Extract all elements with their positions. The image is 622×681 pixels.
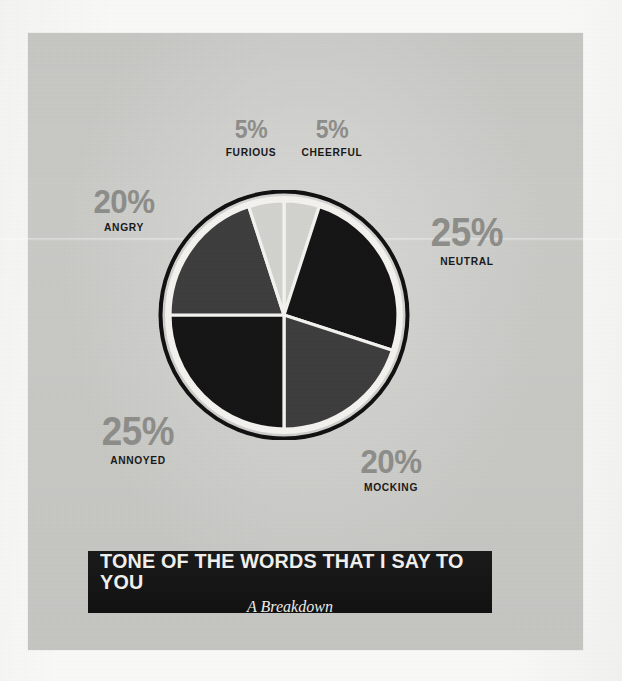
label-neutral: NEUTRAL — [413, 256, 521, 267]
banner-title: TONE OF THE WORDS THAT I SAY TO YOU — [100, 550, 480, 592]
pie-slices-group — [170, 201, 398, 429]
percent-mocking: 20% — [340, 445, 441, 477]
callout-mocking: 20% MOCKING — [336, 445, 446, 493]
callout-cheerful: 5% CHEERFUL — [281, 118, 383, 158]
label-angry: ANGRY — [76, 222, 173, 233]
callout-angry: 20% ANGRY — [72, 185, 176, 233]
callout-annoyed: 25% ANNOYED — [78, 412, 198, 466]
percent-cheerful: 5% — [285, 118, 379, 142]
percent-annoyed: 25% — [83, 412, 193, 450]
paper-sheet: 5% FURIOUS 5% CHEERFUL 25% NEUTRAL 20% M… — [0, 0, 622, 681]
percent-neutral: 25% — [414, 213, 521, 251]
percent-angry: 20% — [76, 185, 172, 217]
label-annoyed: ANNOYED — [82, 455, 194, 466]
pie-chart — [155, 190, 413, 440]
title-banner: TONE OF THE WORDS THAT I SAY TO YOU A Br… — [88, 551, 492, 613]
label-cheerful: CHEERFUL — [285, 147, 380, 158]
callout-neutral: 25% NEUTRAL — [409, 213, 525, 267]
pie-chart-svg — [155, 190, 413, 440]
label-mocking: MOCKING — [340, 482, 442, 493]
banner-subtitle: A Breakdown — [247, 599, 333, 615]
